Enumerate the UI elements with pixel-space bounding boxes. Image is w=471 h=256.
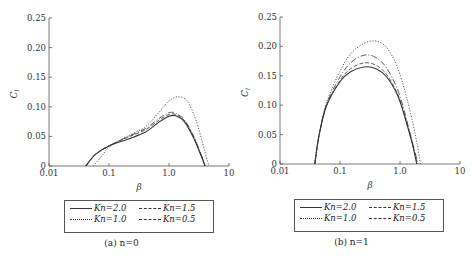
x-axis-label: β [135,182,141,192]
legend-item-kn2: Kn=2.0 [300,202,369,213]
y-axis-label: Cl [240,88,251,97]
legend-item-kn2: Kn=2.0 [70,203,139,214]
series-05 [86,112,205,166]
legend-item-kn05: Kn=0.5 [139,214,208,225]
plot-area-b: 00.050.100.150.200.250.010.11.010βCl [235,0,471,195]
y-tick-label: 0.15 [27,72,46,82]
y-tick-label: 0.25 [27,13,46,23]
dashdot-line-icon [369,218,391,219]
x-tick-label: 10 [455,166,466,176]
y-tick-label: 0.20 [258,41,277,51]
x-tick-label: 0.1 [333,166,347,176]
legend-item-kn15: Kn=1.5 [369,202,438,213]
series-10 [93,97,208,166]
legend-item-kn1: Kn=1.0 [70,214,139,225]
dashdot-line-icon [139,219,161,220]
x-tick-label: 0.01 [271,166,290,176]
legend-item-kn05: Kn=0.5 [369,213,438,224]
solid-line-icon [300,207,322,208]
solid-line-icon [70,208,92,209]
y-tick-label: 0.05 [27,131,46,141]
series-15 [86,114,205,166]
caption-b: (b) n=1 [234,237,469,247]
y-tick-label: 0.20 [27,43,46,53]
series-10 [315,41,421,164]
legend-item-kn1: Kn=1.0 [300,213,369,224]
series-20 [86,115,205,166]
plot-area-a: 00.050.100.150.200.250.010.11.010βCl [0,0,235,195]
y-tick-label: 0.10 [258,100,277,110]
caption-a: (a) n=0 [4,238,239,248]
y-tick-label: 0.15 [258,71,277,81]
series-15 [315,63,418,164]
legend-a: Kn=2.0 Kn=1.5 Kn=1.0 Kn=0.5 [64,200,214,233]
panel-a: 00.050.100.150.200.250.010.11.010βCl Kn=… [0,0,235,256]
y-tick-label: 0.05 [258,130,277,140]
series-20 [315,67,417,164]
y-tick-label: 0.10 [27,102,46,112]
y-tick-label: 0.25 [258,12,277,22]
x-tick-label: 0.01 [40,168,59,178]
dotted-line-icon [300,218,322,219]
dashed-line-icon [369,207,391,208]
dashed-line-icon [139,208,161,209]
legend-b: Kn=2.0 Kn=1.5 Kn=1.0 Kn=0.5 [294,199,444,232]
x-axis-label: β [366,180,372,190]
y-axis-label: Cl [9,90,20,99]
x-tick-label: 0.1 [102,168,116,178]
legend-item-kn15: Kn=1.5 [139,203,208,214]
panel-b: 00.050.100.150.200.250.010.11.010βCl Kn=… [235,0,470,256]
dotted-line-icon [70,219,92,220]
x-tick-label: 1.0 [162,168,176,178]
x-tick-label: 10 [224,168,235,178]
x-tick-label: 1.0 [393,166,407,176]
